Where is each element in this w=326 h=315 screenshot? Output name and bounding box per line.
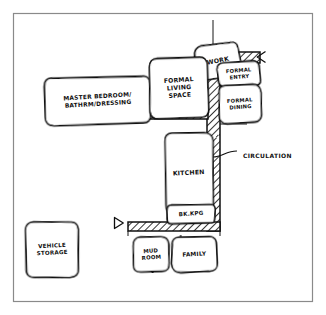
architectural-diagram-canvas: WORKMASTER BEDROOM/BATHRM/DRESSINGFORMAL… <box>0 0 326 315</box>
room-label-line: FAMILY <box>182 250 207 257</box>
vehicle-storage-room-label: VEHICLESTORAGE <box>36 242 68 257</box>
family-room-label: FAMILY <box>182 250 207 257</box>
circulation-callout-text: CIRCULATION <box>243 152 292 159</box>
formal-dining-room-label: FORMALDINING <box>227 96 254 110</box>
floor-plan-sketch: WORKMASTER BEDROOM/BATHRM/DRESSINGFORMAL… <box>0 0 326 315</box>
formal-entry-room-label: FORMALENTRY <box>226 66 253 81</box>
formal-living-space-room-label: FORMALLIVINGSPACE <box>164 75 195 99</box>
